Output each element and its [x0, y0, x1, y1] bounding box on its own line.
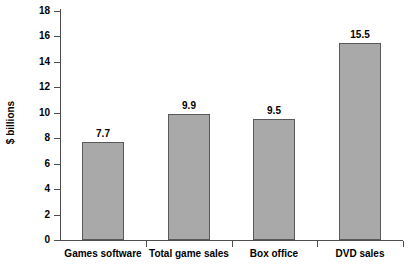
y-axis-tick-label-text: 0	[24, 235, 50, 245]
x-axis-tick	[232, 241, 233, 247]
y-axis-tick-label: 16	[20, 31, 50, 41]
bar-value-label: 15.5	[330, 29, 390, 40]
y-axis-tick-label: 2	[20, 210, 50, 220]
y-axis-tick-label: 8	[20, 133, 50, 143]
y-axis-tick-label-text: 6	[24, 159, 50, 169]
y-axis-tick-label: 6	[20, 159, 50, 169]
y-axis-tick	[54, 138, 60, 139]
y-axis-tick	[54, 240, 60, 241]
y-axis-tick	[54, 164, 60, 165]
y-axis-tick	[54, 11, 60, 12]
y-axis-tick-label-text: 12	[24, 82, 50, 92]
y-axis-tick-label-text: 16	[24, 31, 50, 41]
y-axis-tick-label-text: 18	[24, 6, 50, 16]
x-axis-line	[59, 240, 403, 241]
y-axis-tick-label-text: 10	[24, 108, 50, 118]
y-axis-tick	[54, 113, 60, 114]
y-axis-tick	[54, 215, 60, 216]
y-axis-tick-label: 18	[20, 6, 50, 16]
y-axis-tick-label-text: 8	[24, 133, 50, 143]
bar	[253, 119, 295, 240]
y-axis-title-label: $ billions	[6, 101, 17, 144]
y-axis-tick-label: 4	[20, 184, 50, 194]
y-axis-tick	[54, 87, 60, 88]
y-axis-title: $ billions	[0, 0, 22, 245]
bar	[168, 114, 210, 240]
bar-value-label: 7.7	[73, 128, 133, 139]
x-axis-tick	[317, 241, 318, 247]
y-axis-line	[60, 9, 61, 241]
y-axis-tick-label-text: 4	[24, 184, 50, 194]
y-axis-tick-label: 10	[20, 108, 50, 118]
bar	[339, 43, 381, 240]
bar-value-label: 9.9	[159, 100, 219, 111]
y-axis-tick-label: 0	[20, 235, 50, 245]
y-axis-tick-label-text: 14	[24, 57, 50, 67]
y-axis-tick-label: 12	[20, 82, 50, 92]
y-axis-tick	[54, 189, 60, 190]
bar	[82, 142, 124, 240]
x-axis-tick	[403, 241, 404, 247]
x-axis-tick	[146, 241, 147, 247]
y-axis-tick-label: 14	[20, 57, 50, 67]
y-axis-tick	[54, 62, 60, 63]
bar-chart: $ billions 181614121086420 7.7Games soft…	[0, 0, 412, 273]
bar-value-label: 9.5	[244, 105, 304, 116]
y-axis-tick-label-text: 2	[24, 210, 50, 220]
x-axis-category-label: DVD sales	[300, 248, 412, 260]
y-axis-tick	[54, 36, 60, 37]
